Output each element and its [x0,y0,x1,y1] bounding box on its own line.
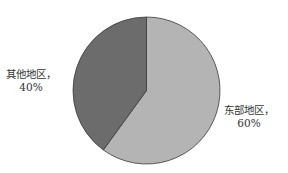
slice-label-other-regions: 其他地区， 40% [6,68,56,94]
pie-slices [73,17,220,164]
slice-label-name: 东部地区， [224,104,274,117]
slice-label-value: 40% [6,81,56,94]
slice-label-eastern-region: 东部地区， 60% [224,104,274,130]
slice-label-value: 60% [224,117,274,130]
slice-label-name: 其他地区， [6,68,56,81]
